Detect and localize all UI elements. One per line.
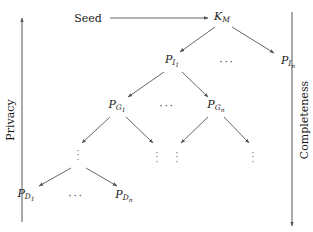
node-pd1: PD1 — [17, 188, 34, 201]
node-km-base: K — [214, 10, 222, 23]
completeness-axis-label: Completeness — [298, 81, 311, 159]
edge-pi1-to-pg1 — [128, 72, 164, 97]
edge-pg1-to-vdots-1 — [82, 117, 110, 143]
node-seed-label: Seed — [74, 12, 102, 25]
node-pin-subscript: In — [288, 59, 295, 68]
node-pin: PIn — [281, 55, 295, 68]
vertical-ellipsis-2: · · · — [156, 151, 159, 164]
node-seed: Seed — [74, 13, 102, 24]
horizontal-ellipsis-row-g: ··· — [159, 100, 174, 113]
horizontal-ellipsis-row-i: ··· — [219, 56, 234, 69]
vertical-ellipsis-1: · · · — [77, 149, 80, 162]
diagram-lines-layer — [0, 0, 313, 232]
node-pgn: PGn — [207, 99, 224, 112]
node-km: KM — [214, 11, 230, 23]
edge-pgn-to-vdots-3 — [181, 117, 208, 143]
node-pd1-subscript: D1 — [25, 192, 35, 201]
node-pd1-sub-index: 1 — [31, 195, 35, 202]
edge-pi1-to-pgn — [182, 72, 208, 97]
node-pi1-subscript: I1 — [172, 58, 179, 67]
edge-km-to-pi1 — [180, 27, 215, 52]
node-pg1: PG1 — [108, 99, 125, 112]
edge-pg1-to-vdots-2 — [126, 117, 153, 143]
figure-canvas: Seed KM PI1 PIn PG1 PGn PD1 PDn ··· ··· … — [0, 0, 313, 232]
node-pdn: PDn — [115, 189, 132, 202]
privacy-axis-label: Privacy — [4, 99, 17, 140]
edge-km-to-pin — [232, 27, 274, 53]
vertical-ellipsis-3-dot-3: · — [176, 159, 179, 163]
edge-vdots-1-to-pdn — [86, 168, 117, 186]
vertical-ellipsis-2-dot-3: · — [156, 159, 159, 163]
horizontal-ellipsis-row-d: ··· — [68, 190, 83, 203]
node-pg1-subscript: G1 — [116, 103, 126, 112]
edge-pgn-to-vdots-4 — [224, 117, 249, 143]
node-pgn-sub-index: n — [221, 106, 225, 113]
edge-vdots-1-to-pd1 — [39, 168, 71, 186]
vertical-ellipsis-1-dot-3: · — [77, 157, 80, 161]
node-pgn-subscript: Gn — [215, 103, 225, 112]
vertical-ellipsis-4: · · · — [252, 151, 255, 164]
node-pi1: PI1 — [165, 54, 179, 67]
vertical-ellipsis-4-dot-3: · — [252, 159, 255, 163]
node-pi1-sub-index: 1 — [175, 61, 179, 68]
node-km-subscript: M — [222, 15, 230, 24]
vertical-ellipsis-3: · · · — [176, 151, 179, 164]
node-pin-sub-index: n — [291, 62, 295, 69]
node-pg1-sub-index: 1 — [122, 106, 126, 113]
node-pdn-sub-index: n — [129, 196, 133, 203]
node-pdn-subscript: Dn — [123, 193, 133, 202]
